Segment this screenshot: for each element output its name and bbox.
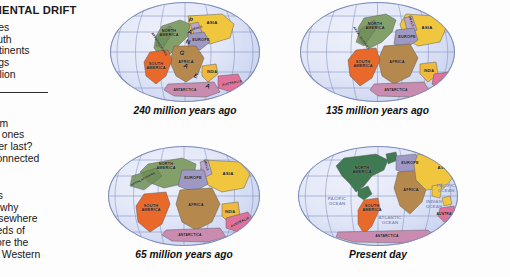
globe-present-day: NORTHAMERICA SOUTHAMERICA AFRICA EUROPE … xyxy=(298,146,458,246)
figure-page: CONTINENTAL DRIFT al forces nd South er … xyxy=(0,0,510,277)
label-australia: AUSTRALIA xyxy=(432,212,458,217)
article-text-column: CONTINENTAL DRIFT al forces nd South er … xyxy=(0,0,104,277)
label-india: INDIA xyxy=(420,69,438,74)
article-paragraph-1: al forces nd South er continents n being… xyxy=(0,22,30,81)
label-pacific-ocean-east: PACIFICOCEAN xyxy=(430,184,458,194)
globe-65-million: NORTHAMERICA APPALACHIANS SOUTHAMERICA A… xyxy=(108,146,260,246)
label-indian-ocean: INDIANOCEAN xyxy=(418,200,450,210)
label-africa: AFRICA xyxy=(180,203,212,207)
text-line: ped elsewhere xyxy=(0,213,40,225)
label-pacific-ocean-west: PACIFICOCEAN xyxy=(320,197,354,207)
figure-present-day: NORTHAMERICA SOUTHAMERICA AFRICA EUROPE … xyxy=(298,146,458,246)
text-line: ed the Western xyxy=(0,249,40,261)
caption-present-day: Present day xyxy=(298,249,458,260)
figure-240-million: NORTHAMERICA APPALACHIANS SOUTHAMERICA A… xyxy=(110,2,260,102)
caption-65-million: 65 million years ago xyxy=(108,249,260,260)
horizontal-rule xyxy=(0,92,48,93)
figure-65-million: NORTHAMERICA APPALACHIANS SOUTHAMERICA A… xyxy=(108,146,260,246)
label-south-america: SOUTHAMERICA xyxy=(135,204,167,212)
label-atlantic-ocean: ATLANTICOCEAN xyxy=(372,216,408,226)
text-line: hundreds of xyxy=(0,225,40,237)
label-africa: AFRICA xyxy=(396,188,426,192)
label-europe: EUROPE xyxy=(179,176,207,180)
article-paragraph-2: Which ted from Which ones ch other last?… xyxy=(0,106,39,165)
label-asia: ASIA xyxy=(217,172,239,177)
label-asia: ASIA xyxy=(416,26,438,31)
article-paragraph-3: w does xplain why ped elsewhere hundreds… xyxy=(0,190,40,260)
label-europe: EUROPE xyxy=(394,35,420,39)
label-antarctica: ANTARCTICA xyxy=(168,88,202,93)
text-line: Which xyxy=(0,106,39,118)
label-europe: EUROPE xyxy=(396,161,424,165)
text-line: n beings xyxy=(0,57,30,69)
figure-135-million: NORTHAMERICA APPALACHIANS SOUTHAMERICA A… xyxy=(300,2,455,102)
text-line: rs before the xyxy=(0,237,40,249)
label-antarctica: ANTARCTICA xyxy=(172,233,208,238)
text-line: ch other last? xyxy=(0,141,39,153)
label-south-america: SOUTHAMERICA xyxy=(347,60,379,68)
page-title: CONTINENTAL DRIFT xyxy=(0,4,77,16)
text-line: sely connected xyxy=(0,153,39,165)
text-line: al forces xyxy=(0,22,30,34)
text-line: xplain why xyxy=(0,202,40,214)
text-line: wo million xyxy=(0,69,30,81)
text-line: w does xyxy=(0,190,40,202)
globe-135-million: NORTHAMERICA APPALACHIANS SOUTHAMERICA A… xyxy=(300,2,455,102)
globe-240-million: NORTHAMERICA APPALACHIANS SOUTHAMERICA A… xyxy=(110,2,260,102)
label-india: INDIA xyxy=(203,70,221,75)
caption-135-million: 135 million years ago xyxy=(300,105,455,116)
text-line: er continents xyxy=(0,45,30,57)
label-africa: AFRICA xyxy=(382,60,412,64)
landmasses xyxy=(300,2,455,102)
text-line: nd South xyxy=(0,34,30,46)
label-india: INDIA xyxy=(221,210,239,215)
landmasses xyxy=(298,146,458,246)
caption-240-million: 240 million years ago xyxy=(110,105,260,116)
label-asia: ASIA xyxy=(201,21,223,26)
label-south-america: SOUTHAMERICA xyxy=(356,204,388,212)
label-antarctica: ANTARCTICA xyxy=(368,234,406,239)
text-line: Which ones xyxy=(0,129,39,141)
label-antarctica: ANTARCTICA xyxy=(378,88,414,93)
label-north-america: NORTHAMERICA xyxy=(154,29,184,37)
label-asia: ASIA xyxy=(432,166,454,171)
label-south-america: SOUTHAMERICA xyxy=(141,62,171,70)
text-line: ted from xyxy=(0,118,39,130)
label-north-america: NORTHAMERICA xyxy=(359,22,391,30)
landmasses xyxy=(108,146,260,246)
label-north-america: NORTHAMERICA xyxy=(346,166,378,174)
